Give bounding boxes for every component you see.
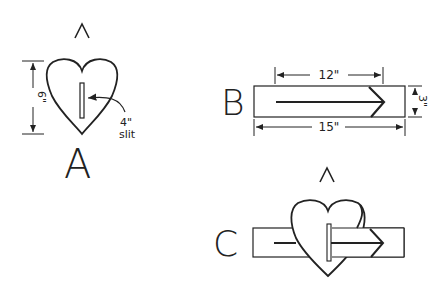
slit-label: slit [119, 128, 136, 141]
figure-label-c: C [213, 223, 238, 264]
strip-length-dim: 15" [319, 120, 340, 134]
caret-b [320, 168, 334, 182]
figure-b: B 12" 15" 3" [221, 67, 429, 182]
slit-a [80, 83, 84, 118]
figure-label-b: B [221, 82, 245, 123]
craft-diagram: 6" 4" slit A B 12" 15" 3" C [0, 0, 443, 287]
strip-width-dim: 3" [416, 95, 429, 107]
figure-a: 6" 4" slit A [22, 24, 136, 187]
heart-a [47, 59, 117, 134]
figure-label-a: A [64, 141, 91, 187]
arrow-length-dim: 12" [319, 68, 340, 82]
figure-c: C [213, 200, 404, 276]
height-dim-a: 6" [35, 91, 48, 103]
slit-c [327, 224, 331, 261]
caret-a [75, 24, 89, 38]
